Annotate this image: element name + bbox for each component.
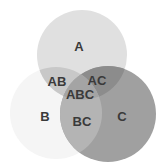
- label-ac: AC: [88, 74, 107, 87]
- label-ab: AB: [48, 75, 67, 88]
- label-bc: BC: [73, 115, 92, 128]
- label-c: C: [117, 110, 126, 123]
- label-a: A: [74, 40, 83, 53]
- venn-diagram: A AB AC ABC B BC C: [0, 0, 167, 168]
- label-b: B: [40, 110, 49, 123]
- label-abc: ABC: [66, 88, 94, 101]
- venn-canvas: [0, 0, 167, 168]
